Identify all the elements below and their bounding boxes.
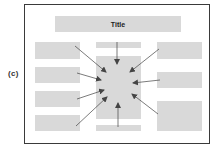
arrow-left-3	[77, 90, 104, 99]
arrow-top-left	[75, 46, 106, 72]
arrow-left-2	[77, 73, 101, 80]
arrows-layer	[0, 0, 218, 152]
arrow-right-3	[132, 94, 158, 114]
arrow-right-2	[133, 80, 160, 83]
arrow-top-right	[130, 49, 159, 72]
arrow-left-4	[76, 97, 107, 126]
